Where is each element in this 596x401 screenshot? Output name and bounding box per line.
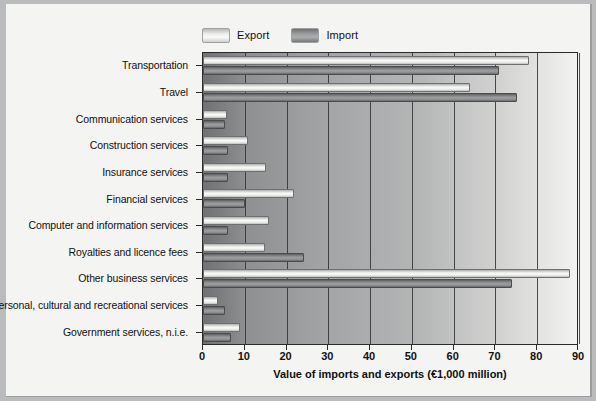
bar-export[interactable] — [203, 323, 240, 332]
x-axis-tick-label-50: 50 — [405, 350, 417, 362]
category-label: Royalties and licence fees — [69, 246, 188, 258]
bar-import[interactable] — [203, 93, 517, 102]
category-label: Computer and information services — [28, 219, 188, 231]
bar-export[interactable] — [203, 216, 269, 225]
bar-export[interactable] — [203, 110, 227, 119]
bar-import[interactable] — [203, 66, 499, 75]
category-label: Financial services — [106, 193, 188, 205]
x-axis-tick-label-70: 70 — [488, 350, 500, 362]
bar-import[interactable] — [203, 333, 231, 342]
bar-row — [203, 239, 577, 266]
bar-export[interactable] — [203, 296, 218, 305]
x-axis-tick-label-20: 20 — [279, 350, 291, 362]
category-label: Personal, cultural and recreational serv… — [0, 299, 188, 311]
bar-import[interactable] — [203, 199, 245, 208]
x-axis-tick-label-40: 40 — [363, 350, 375, 362]
bar-export[interactable] — [203, 136, 248, 145]
legend-label-export: Export — [237, 29, 269, 41]
gridline-90 — [579, 53, 580, 344]
bar-row — [203, 160, 577, 187]
legend-entry-export[interactable]: Export — [202, 28, 269, 43]
x-axis-tick-label-30: 30 — [321, 350, 333, 362]
category-label: Other business services — [78, 272, 188, 284]
bar-row — [203, 133, 577, 160]
category-axis: TransportationTravelCommunication servic… — [6, 52, 196, 345]
bar-export[interactable] — [203, 56, 529, 65]
x-axis-tick-label-60: 60 — [447, 350, 459, 362]
bar-row — [203, 53, 577, 80]
chart-figure: Export Import TransportationTravelCommun… — [6, 4, 592, 397]
bar-import[interactable] — [203, 306, 225, 315]
category-label: Transportation — [122, 59, 188, 71]
category-label: Travel — [160, 86, 188, 98]
bar-row — [203, 186, 577, 213]
bar-import[interactable] — [203, 120, 225, 129]
bar-row — [203, 293, 577, 320]
legend-entry-import[interactable]: Import — [291, 28, 358, 43]
bar-rows — [203, 53, 577, 344]
bar-row — [203, 106, 577, 133]
x-axis-tick-labels: 0102030405060708090 — [202, 350, 578, 366]
bar-import[interactable] — [203, 253, 304, 262]
x-axis-tick-label-0: 0 — [199, 350, 205, 362]
category-label: Communication services — [76, 113, 188, 125]
bar-export[interactable] — [203, 83, 470, 92]
bar-export[interactable] — [203, 269, 570, 278]
bar-import[interactable] — [203, 146, 228, 155]
bar-import[interactable] — [203, 226, 228, 235]
plot-area — [202, 52, 578, 345]
bar-import[interactable] — [203, 279, 512, 288]
bar-export[interactable] — [203, 163, 266, 172]
category-label: Construction services — [90, 139, 188, 151]
category-label: Insurance services — [102, 166, 188, 178]
import-swatch-icon — [291, 28, 319, 43]
bar-row — [203, 80, 577, 107]
x-axis-tick-label-80: 80 — [530, 350, 542, 362]
x-axis-tick-label-90: 90 — [572, 350, 584, 362]
bar-row — [203, 319, 577, 346]
bar-import[interactable] — [203, 173, 228, 182]
export-swatch-icon — [202, 28, 230, 43]
x-axis-title: Value of imports and exports (€1,000 mil… — [202, 368, 578, 380]
bar-row — [203, 266, 577, 293]
bar-export[interactable] — [203, 243, 265, 252]
legend-label-import: Import — [326, 29, 358, 41]
x-axis-tick-label-10: 10 — [238, 350, 250, 362]
category-label: Government services, n.i.e. — [63, 326, 188, 338]
bar-row — [203, 213, 577, 240]
bar-export[interactable] — [203, 189, 294, 198]
chart-legend: Export Import — [202, 26, 358, 44]
